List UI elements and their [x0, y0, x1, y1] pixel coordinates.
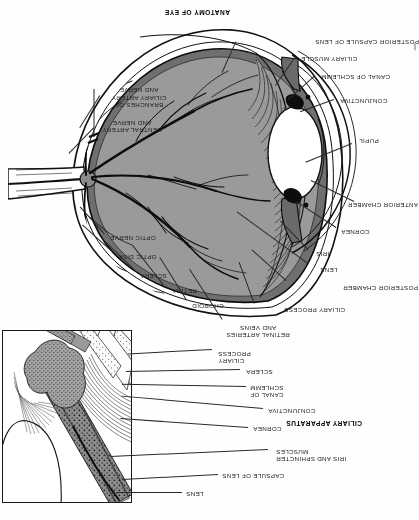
- leader-lens: [116, 492, 182, 493]
- leader-canal-schlemm-inset: [122, 384, 246, 387]
- label-iris-main: IRIS: [316, 251, 340, 258]
- ciliary-apparatus-frame: [2, 330, 132, 503]
- anatomy-of-eye-drawing: [8, 25, 388, 325]
- label-optic-nerve: OPTIC NERVE: [110, 235, 166, 242]
- label-central-artery-and-nerve: CENTRAL ARTERY AND NERVE: [92, 119, 172, 134]
- label-optic-disk: OPTIC DISK: [118, 254, 168, 261]
- label-posterior-capsule-of-lens: POSTERIOR CAPSULE OF LENS: [331, 39, 419, 46]
- leader-capsule-of-lens: [122, 474, 218, 480]
- label-anterior-chamber: ANTERIOR CHAMBER: [359, 202, 418, 209]
- scan-edge-artifact: ▌: [412, 44, 416, 50]
- label-sclera-main: SCLERA: [140, 273, 184, 280]
- leader-iris-sphincter: [110, 449, 268, 456]
- leader-sclera-inset: [126, 369, 240, 372]
- label-canal-of-schlemm-inset: CANAL OF SCHLEMM: [250, 384, 330, 399]
- label-iris-and-sphincter-muscles: IRIS AND SPHINCTER MUSCLES: [276, 448, 376, 463]
- label-branches-of-ciliary-artery-and-nerve: BRANCHES OF CILIARY ARTERY AND NERVE: [101, 87, 177, 109]
- leader-cornea-inset: [120, 418, 248, 428]
- label-sclera-inset: SCLERA: [246, 369, 306, 376]
- ciliary-apparatus-title: CILIARY APPARATUS: [286, 420, 362, 427]
- ciliary-apparatus-drawing: [3, 331, 131, 502]
- leader-ciliary-process-inset: [128, 349, 212, 354]
- label-choroid: CHOROID: [192, 303, 246, 310]
- label-capsule-of-lens: CAPSULE OF LENS: [222, 473, 332, 480]
- label-ciliary-process-main: CILIARY PROCESS: [284, 307, 374, 314]
- label-cornea-main: CORNEA: [341, 229, 385, 236]
- anatomy-of-eye-title: ANATOMY OF EYE: [164, 9, 230, 16]
- label-lens-main: LENS: [320, 267, 352, 274]
- label-conjunctiva-inset: CONJUNCTIVA: [268, 408, 358, 415]
- label-ciliary-process-inset: CILIARY PROCESS: [218, 350, 278, 365]
- label-canal-of-schlemm-main: CANAL OF SCHLEMM: [321, 74, 401, 81]
- label-conjunctiva-main: CONJUNCTIVA: [340, 98, 402, 105]
- label-posterior-chamber: POSTERIOR CHAMBER: [365, 285, 418, 292]
- label-pupil: PUPIL: [359, 138, 387, 145]
- label-ciliary-muscle: CILIARY MUSCLE: [301, 56, 371, 63]
- leader-conjunctiva-inset: [122, 396, 264, 409]
- label-retina: RETINA: [172, 288, 218, 295]
- label-retinal-arteries-and-veins: RETINAL ARTERIES AND VEINS: [198, 324, 318, 339]
- label-lens-inset: LENS: [186, 491, 286, 498]
